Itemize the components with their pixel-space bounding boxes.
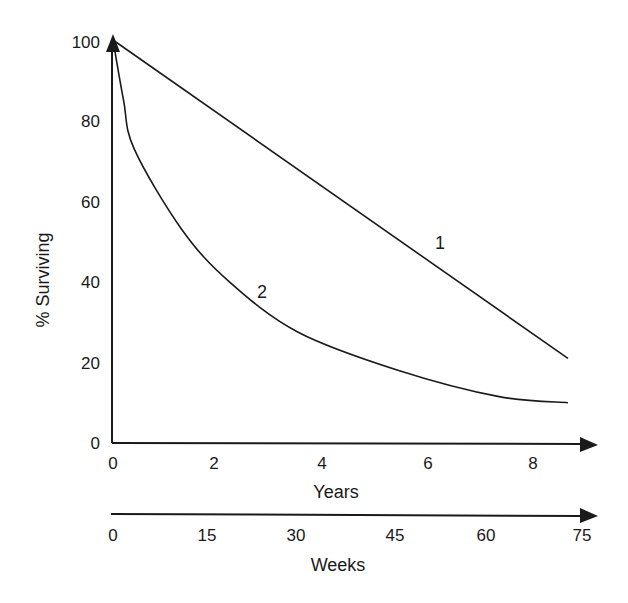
x-axis-title-years: Years [313, 482, 358, 502]
week-tick: 75 [573, 526, 592, 545]
week-tick: 15 [198, 526, 217, 545]
curve-label-2: 2 [257, 282, 267, 302]
x-tick-labels-weeks: 0 15 30 45 60 75 [108, 526, 591, 545]
x-axis-weeks [111, 514, 582, 516]
x-axis-weeks-arrow-icon [580, 508, 598, 523]
x-tick-labels-years: 0 2 4 6 8 [108, 454, 537, 473]
x-tick: 2 [209, 454, 218, 473]
week-tick: 30 [287, 526, 306, 545]
x-axis-years-arrow-icon [580, 437, 598, 452]
survival-chart: 0 20 40 60 80 100 % Surviving 0 2 4 6 8 … [0, 0, 628, 603]
x-axis-title-weeks: Weeks [311, 555, 366, 575]
y-tick-labels: 0 20 40 60 80 100 [72, 33, 100, 453]
y-axis-title: % Surviving [33, 232, 53, 327]
week-tick: 45 [386, 526, 405, 545]
y-tick: 100 [72, 33, 100, 52]
y-tick: 20 [81, 354, 100, 373]
x-axis-years [112, 443, 582, 444]
series-line-1 [113, 40, 568, 358]
x-tick: 0 [108, 454, 117, 473]
y-tick: 60 [81, 193, 100, 212]
week-tick: 60 [477, 526, 496, 545]
y-tick: 40 [81, 273, 100, 292]
y-tick: 80 [81, 112, 100, 131]
week-tick: 0 [108, 526, 117, 545]
y-tick: 0 [91, 434, 100, 453]
x-tick: 6 [423, 454, 432, 473]
x-tick: 4 [317, 454, 326, 473]
series-line-2 [113, 40, 568, 403]
x-tick: 8 [528, 454, 537, 473]
curve-label-1: 1 [435, 233, 445, 253]
